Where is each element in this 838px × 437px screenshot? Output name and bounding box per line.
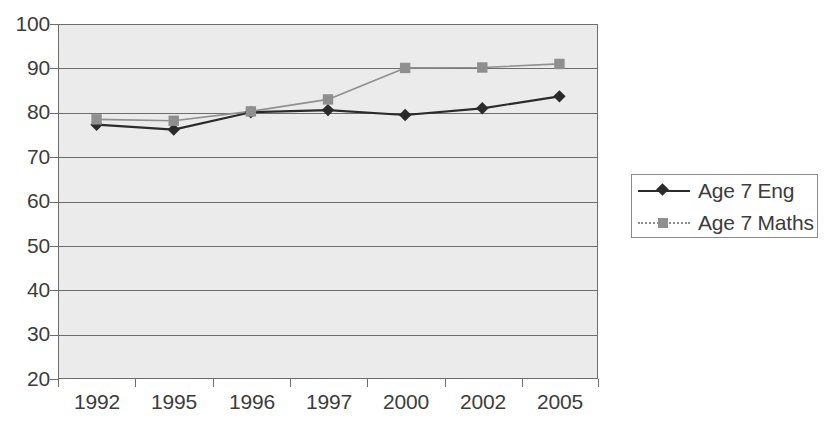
diamond-marker-icon — [656, 183, 669, 196]
x-tick-label: 1996 — [213, 390, 291, 414]
legend-key-line-icon — [638, 214, 690, 232]
chart-legend: Age 7 Eng Age 7 Maths — [631, 174, 818, 238]
x-tick-mark — [213, 379, 214, 387]
y-tick-mark — [50, 24, 58, 25]
x-tick-mark — [598, 379, 599, 387]
x-tick-label: 2002 — [444, 390, 522, 414]
x-tick-mark — [445, 379, 446, 387]
x-tick-mark — [58, 379, 59, 387]
y-tick-label: 20 — [0, 368, 50, 389]
data-point-diamond — [476, 102, 488, 114]
x-axis: 1992 1995 1996 1997 2000 2002 2005 — [58, 390, 598, 420]
legend-item-age-7-eng[interactable]: Age 7 Eng — [632, 175, 817, 207]
y-tick-label: 70 — [0, 146, 50, 167]
x-tick-mark — [290, 379, 291, 387]
x-tick-mark — [135, 379, 136, 387]
data-point-diamond — [322, 104, 334, 116]
plot-area — [58, 24, 598, 379]
x-tick-label: 2000 — [367, 390, 445, 414]
y-tick-mark — [50, 379, 58, 380]
data-point-diamond — [399, 109, 411, 121]
y-tick-mark — [50, 68, 58, 69]
y-tick-label: 50 — [0, 235, 50, 256]
x-tick-mark — [522, 379, 523, 387]
y-tick-mark — [50, 290, 58, 291]
data-point-square — [91, 114, 101, 124]
legend-item-age-7-maths[interactable]: Age 7 Maths — [632, 207, 817, 239]
series-markers — [90, 59, 565, 136]
data-point-square — [400, 63, 410, 73]
legend-key-line-icon — [638, 182, 690, 200]
plot-svg — [58, 24, 598, 379]
x-tick-mark — [367, 379, 368, 387]
data-point-square — [477, 62, 487, 72]
data-point-diamond — [553, 90, 565, 102]
y-tick-label: 40 — [0, 279, 50, 300]
y-axis: 100 90 80 70 60 50 40 30 20 — [0, 0, 50, 437]
plot-border — [59, 25, 598, 379]
legend-label: Age 7 Maths — [698, 211, 814, 235]
data-point-square — [323, 94, 333, 104]
data-point-square — [246, 106, 256, 116]
y-tick-label: 60 — [0, 190, 50, 211]
y-tick-mark — [50, 246, 58, 247]
x-tick-label: 1997 — [290, 390, 368, 414]
square-marker-icon — [658, 218, 668, 228]
x-tick-label: 1992 — [58, 390, 136, 414]
x-tick-label: 2005 — [521, 390, 599, 414]
y-tick-label: 80 — [0, 101, 50, 122]
data-point-square — [554, 59, 564, 69]
x-tick-label: 1995 — [135, 390, 213, 414]
y-tick-mark — [50, 113, 58, 114]
y-tick-label: 90 — [0, 57, 50, 78]
legend-label: Age 7 Eng — [698, 179, 794, 203]
y-tick-label: 100 — [0, 13, 50, 34]
data-point-square — [169, 116, 179, 126]
gridlines — [58, 25, 598, 380]
y-tick-label: 30 — [0, 323, 50, 344]
y-tick-mark — [50, 335, 58, 336]
y-tick-mark — [50, 202, 58, 203]
y-tick-mark — [50, 157, 58, 158]
line-chart: 100 90 80 70 60 50 40 30 20 1992 1995 1 — [0, 0, 838, 437]
